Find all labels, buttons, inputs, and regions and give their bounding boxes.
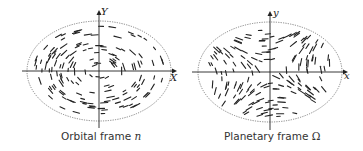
flow-dash	[241, 56, 245, 59]
flow-dash	[308, 90, 314, 95]
flow-dash	[322, 87, 326, 92]
flow-dash	[142, 79, 145, 84]
flow-dash	[247, 90, 249, 92]
flow-dash	[290, 42, 296, 47]
flow-dash	[57, 71, 58, 76]
flow-dash	[61, 34, 65, 36]
flow-dash	[222, 101, 225, 106]
flow-dash	[328, 55, 329, 61]
flow-dash	[283, 108, 288, 109]
flow-dash	[120, 106, 124, 107]
flow-dash	[261, 112, 267, 114]
flow-dash	[240, 83, 243, 89]
flow-dash	[78, 77, 81, 81]
flow-dash	[55, 61, 57, 66]
flow-dash	[104, 85, 109, 86]
flow-dash	[90, 75, 92, 77]
flow-dash	[257, 98, 264, 101]
flow-dash	[123, 105, 128, 107]
flow-dash	[300, 59, 302, 66]
flow-dash	[265, 34, 270, 35]
flow-dash	[233, 69, 234, 72]
flow-dash	[287, 80, 292, 84]
flow-dash	[308, 60, 309, 67]
flow-dash	[123, 93, 127, 95]
y-axis-arrow-icon	[268, 11, 273, 16]
flow-dash	[315, 88, 319, 92]
flow-dash	[66, 55, 69, 58]
flow-dash	[51, 74, 52, 79]
flow-dash	[230, 55, 233, 58]
caption-symbol: Ω	[312, 130, 321, 142]
flow-dash	[228, 82, 229, 86]
flow-dash	[73, 63, 75, 68]
planetary-frame-panel: x y Planetary frame Ω	[180, 0, 363, 151]
flow-dash	[307, 67, 308, 73]
flow-dash	[61, 44, 67, 48]
flow-dash	[243, 111, 246, 113]
flow-dash	[255, 66, 259, 72]
flow-dash	[162, 59, 164, 64]
flow-dash	[62, 97, 66, 99]
flow-dash	[62, 63, 64, 68]
flow-dash	[256, 53, 262, 54]
flow-dash	[88, 103, 93, 104]
flow-dash	[83, 103, 86, 104]
flow-dash	[90, 59, 93, 60]
flow-dash	[320, 77, 322, 81]
flow-dash	[116, 48, 120, 50]
flow-dash	[113, 59, 116, 61]
flow-dash	[306, 56, 307, 60]
flow-dash	[264, 109, 272, 111]
flow-dash	[138, 35, 141, 37]
flow-dash	[248, 85, 252, 90]
flow-dash	[226, 71, 227, 76]
flow-dash	[257, 115, 263, 117]
flow-dash	[54, 84, 56, 87]
flow-dash	[316, 40, 318, 43]
flow-dash	[49, 96, 53, 99]
flow-dash	[154, 76, 155, 79]
flow-dash	[312, 57, 313, 61]
x-axis-label: x	[344, 70, 350, 81]
flow-dash	[76, 82, 79, 84]
flow-dash	[234, 84, 235, 88]
flow-dash	[291, 91, 296, 93]
flow-dash	[134, 63, 136, 70]
flow-dash	[53, 54, 56, 58]
flow-dash	[50, 86, 52, 89]
flow-dash	[70, 51, 76, 55]
flow-dash	[289, 76, 294, 82]
flow-dash	[278, 102, 286, 103]
flow-dash	[107, 96, 115, 98]
flow-dash	[268, 48, 275, 50]
flow-dash	[235, 47, 242, 51]
flow-dash	[113, 98, 119, 100]
flow-dash	[137, 85, 139, 88]
flow-dash	[307, 35, 310, 39]
flow-dash	[92, 65, 97, 67]
flow-dash	[56, 54, 60, 59]
flow-dash	[280, 73, 284, 77]
flow-dash	[214, 52, 216, 54]
y-axis-label: Y	[101, 6, 108, 17]
flow-dash	[81, 98, 85, 99]
flow-dash	[109, 86, 114, 88]
flow-dash	[252, 71, 253, 75]
flow-dash	[109, 27, 116, 28]
flow-dash	[138, 61, 140, 67]
flow-dash	[256, 93, 261, 95]
orbital-frame-panel: X Y Orbital frame n	[0, 0, 180, 151]
x-axis-label: X	[170, 72, 177, 83]
flow-dash	[241, 96, 245, 100]
flow-dash	[44, 45, 48, 49]
caption-symbol: n	[134, 130, 141, 142]
flow-dash	[298, 90, 305, 94]
flow-dash	[209, 63, 211, 66]
flow-dash	[56, 34, 62, 37]
flow-dash	[324, 66, 325, 71]
flow-dash	[131, 35, 135, 37]
flow-dash	[130, 104, 133, 105]
flow-dash	[141, 61, 142, 64]
flow-dash	[234, 95, 236, 98]
